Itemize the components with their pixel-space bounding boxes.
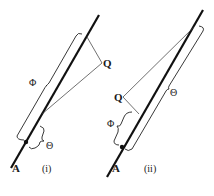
diagram-canvas: Φ Θ Q A (i) Φ Θ Q A (ii): [0, 0, 214, 196]
a-label-ii: A: [112, 162, 120, 174]
caption-ii: (ii): [144, 163, 156, 175]
phi-label-ii: Φ: [107, 118, 114, 129]
q-line-upper-i: [87, 37, 102, 63]
q-label-ii: Q: [114, 91, 123, 103]
a-label-i: A: [12, 162, 20, 174]
phi-label-i: Φ: [29, 77, 36, 88]
main-line-i: [11, 15, 99, 168]
q-label-i: Q: [103, 57, 112, 69]
point-dot-i: [24, 140, 28, 144]
q-line-lower-i: [42, 63, 102, 114]
panel-i: Φ Θ Q A (i): [11, 15, 112, 175]
theta-label-i: Θ: [46, 140, 53, 151]
theta-label-ii: Θ: [170, 87, 177, 98]
point-dot-ii: [120, 145, 124, 149]
panel-ii: Φ Θ Q A (ii): [107, 10, 204, 177]
caption-i: (i): [42, 163, 51, 175]
q-line-lower-ii: [123, 97, 139, 114]
theta-bracket-ii: [125, 26, 204, 151]
phi-bracket-i: [17, 33, 82, 140]
theta-bracket-i: [29, 126, 44, 149]
